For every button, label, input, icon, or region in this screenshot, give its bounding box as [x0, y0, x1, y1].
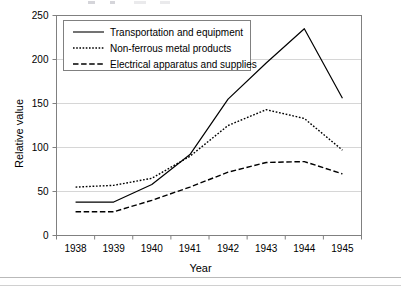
y-tick-label-200: 200	[21, 54, 49, 65]
x-axis-tick-marks	[57, 236, 362, 240]
x-axis-title: Year	[0, 262, 401, 274]
legend-label-1: Non-ferrous metal products	[110, 43, 231, 54]
x-tick-label-1939: 1939	[94, 243, 134, 254]
legend-label-2: Electrical apparatus and supplies	[110, 59, 257, 70]
series-line-2	[76, 162, 343, 212]
x-tick-label-1944: 1944	[284, 243, 324, 254]
legend: Transportation and equipment Non-ferrous…	[64, 21, 257, 71]
y-axis-tick-marks	[53, 16, 57, 236]
legend-label-0: Transportation and equipment	[110, 27, 243, 38]
page-divider-2	[0, 285, 401, 286]
page-divider-1	[0, 277, 401, 278]
x-tick-label-1943: 1943	[246, 243, 286, 254]
x-tick-label-1940: 1940	[132, 243, 172, 254]
line-chart-figure: Transportation and equipment Non-ferrous…	[0, 0, 401, 290]
y-tick-label-50: 50	[21, 186, 49, 197]
x-tick-label-1942: 1942	[208, 243, 248, 254]
x-tick-label-1945: 1945	[322, 243, 362, 254]
x-tick-label-1941: 1941	[170, 243, 210, 254]
y-tick-label-0: 0	[21, 230, 49, 241]
series-line-1	[76, 110, 343, 187]
y-axis-title: Relative value	[13, 99, 25, 168]
x-tick-label-1938: 1938	[56, 243, 96, 254]
y-tick-label-250: 250	[21, 10, 49, 21]
